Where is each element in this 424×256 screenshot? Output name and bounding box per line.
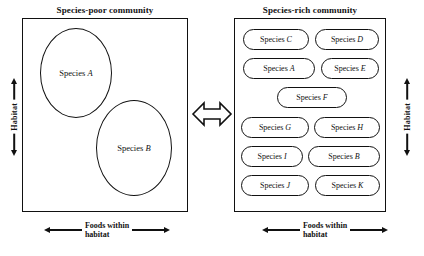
left-panel-title: Species-poor community [22, 5, 188, 15]
right-foods-axis-label-line1: Foods within [300, 221, 350, 231]
niche-capsule-species-k: Species K [315, 175, 380, 196]
right-foods-axis-right-arm [350, 225, 388, 235]
niche-label-species-f: Species F [296, 93, 327, 102]
right-panel-title: Species-rich community [234, 5, 386, 15]
niche-label-species-a-right: Species A [263, 64, 294, 73]
right-foods-axis-left-arm [262, 225, 300, 235]
niche-capsule-species-e: Species E [321, 58, 379, 79]
niche-label-species-k: Species K [332, 181, 364, 190]
niche-capsule-species-d: Species D [315, 29, 379, 50]
niche-label-species-d: Species D [331, 35, 363, 44]
left-foods-axis-line-right [132, 229, 164, 231]
niche-label-species-e: Species E [334, 64, 365, 73]
left-foods-axis-label-line1: Foods within [82, 221, 132, 231]
right-habitat-axis: Habitat [399, 78, 415, 156]
niche-capsule-species-j: Species J [241, 175, 309, 196]
left-foods-axis-line-left [50, 229, 82, 231]
niche-label-species-c: Species C [260, 35, 292, 44]
niche-label-species-b: Species B [117, 143, 150, 153]
niche-label-species-j: Species J [260, 181, 290, 190]
niche-label-species-i: Species I [257, 152, 286, 161]
right-foods-axis: Foods within habitat [252, 218, 398, 242]
niche-capsule-species-a: Species A [243, 58, 315, 79]
niche-capsule-species-h: Species H [314, 117, 380, 138]
species-niche-diagram: Species-poor community Species A Species… [0, 0, 424, 256]
niche-capsule-species-f: Species F [277, 87, 347, 108]
niche-capsule-species-b: Species B [308, 146, 380, 167]
bidirectional-arrow-icon [191, 100, 233, 128]
right-foods-axis-label-line2: habitat [300, 230, 350, 240]
niche-ellipse-species-b: Species B [96, 100, 172, 196]
right-habitat-axis-label: Habitat [403, 100, 412, 134]
niche-capsule-species-g: Species G [241, 117, 309, 138]
left-foods-axis: Foods within habitat [34, 218, 180, 242]
left-habitat-axis-label: Habitat [10, 100, 19, 134]
right-foods-axis-line-left [268, 229, 300, 231]
right-foods-axis-line-right [350, 229, 382, 231]
left-foods-axis-left-arm [44, 225, 82, 235]
right-foods-axis-label: Foods within habitat [300, 221, 350, 240]
niche-label-species-a: Species A [59, 68, 92, 78]
left-foods-axis-label: Foods within habitat [82, 221, 132, 240]
niche-capsule-species-i: Species I [241, 146, 303, 167]
left-foods-axis-label-line2: habitat [82, 230, 132, 240]
niche-label-species-g: Species G [259, 123, 291, 132]
arrow-right-icon [164, 227, 170, 233]
arrow-right-icon [382, 227, 388, 233]
left-habitat-axis: Habitat [6, 78, 22, 156]
niche-label-species-h: Species H [331, 123, 363, 132]
niche-ellipse-species-a: Species A [40, 28, 112, 118]
left-foods-axis-right-arm [132, 225, 170, 235]
niche-label-species-b-right: Species B [328, 152, 359, 161]
niche-capsule-species-c: Species C [243, 29, 309, 50]
